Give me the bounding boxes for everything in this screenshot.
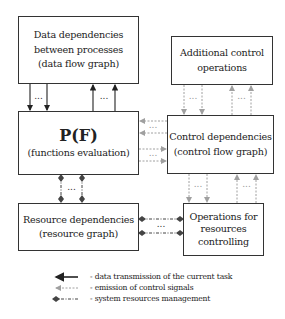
pf-box: P(F) (functions evaluation) (18, 111, 139, 175)
ellipsis-resource-vertical: ... (67, 182, 76, 192)
control-dependencies-line-1: Control dependencies (169, 130, 272, 145)
data-dependencies-line-1: Data dependencies (34, 28, 124, 43)
control-dependencies-box: Control dependencies (control flow graph… (167, 115, 274, 174)
pf-title: P(F) (59, 126, 98, 146)
data-dependencies-box: Data dependencies between processes (dat… (18, 16, 139, 84)
legend-glyphs (56, 277, 78, 299)
additional-control-line-1: Additional control (180, 46, 264, 61)
ellipsis-ctrl-left: ... (149, 120, 158, 130)
operations-resources-line-1: Operations for (190, 211, 258, 224)
ellipsis-ctrl-right: ... (149, 148, 158, 158)
ellipsis-ops-down: ... (194, 179, 203, 189)
control-dependencies-line-2: (control flow graph) (174, 145, 268, 160)
operations-resources-line-3: controlling (198, 236, 249, 249)
legend-item-data-transmission: - data transmission of the current task (90, 272, 232, 282)
additional-control-box: Additional control operations (171, 36, 273, 85)
data-dependencies-line-2: between processes (34, 43, 123, 58)
ellipsis-ops-up: ... (242, 179, 251, 189)
resource-dependencies-line-1: Resource dependencies (23, 213, 134, 228)
data-dependencies-line-3: (data flow graph) (38, 57, 119, 72)
ellipsis-data-up: ... (100, 91, 109, 101)
operations-resources-box: Operations for resources controlling (183, 203, 264, 256)
pf-subtitle: (functions evaluation) (28, 146, 130, 161)
ellipsis-resource-horizontal: ... (157, 219, 166, 229)
operations-resources-line-2: resources (201, 223, 247, 236)
legend-item-resources-management: - system resources management (90, 294, 210, 304)
resource-dependencies-line-2: (resource graph) (39, 227, 118, 242)
ellipsis-ctrl-up: ... (237, 91, 246, 101)
additional-control-line-2: operations (197, 61, 247, 76)
ellipsis-ctrl-down: ... (189, 91, 198, 101)
ellipsis-data-down: ... (34, 91, 43, 101)
legend-item-control-signals: - emission of control signals (90, 283, 193, 293)
resource-dependencies-box: Resource dependencies (resource graph) (18, 203, 139, 251)
